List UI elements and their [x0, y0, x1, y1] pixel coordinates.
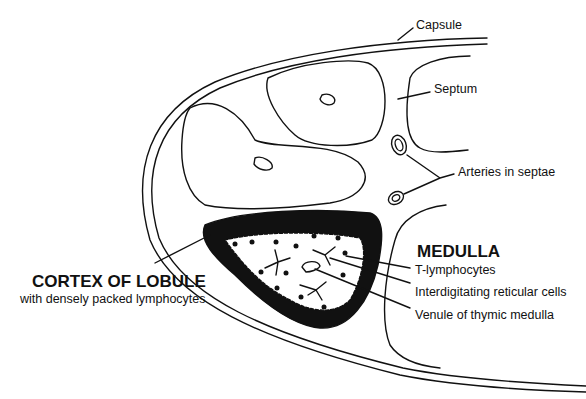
- label-t-lymphocytes: T-lymphocytes: [415, 264, 496, 277]
- label-medulla: MEDULLA: [417, 243, 500, 260]
- label-cortex-sub: with densely packed lymphocytes: [20, 293, 206, 306]
- thymus-diagram: [0, 0, 586, 399]
- label-arteries: Arteries in septae: [458, 166, 555, 179]
- label-cortex: CORTEX OF LOBULE: [32, 273, 206, 290]
- label-capsule: Capsule: [416, 19, 462, 32]
- left-lobule: [182, 104, 365, 209]
- label-septum: Septum: [434, 83, 477, 96]
- label-reticular-cells: Interdigitating reticular cells: [415, 286, 566, 299]
- label-venule: Venule of thymic medulla: [415, 309, 554, 322]
- upper-lobule: [267, 61, 385, 146]
- right-lobule: [407, 56, 470, 152]
